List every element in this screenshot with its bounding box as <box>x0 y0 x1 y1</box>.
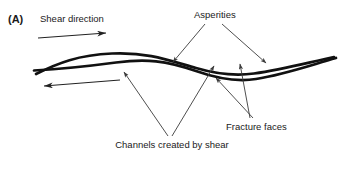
lower-fracture-face-curve <box>34 58 336 80</box>
figure-panel-a: (A) Shear direction Asperities Channels … <box>0 0 339 175</box>
channels-label: Channels created by shear <box>113 140 231 151</box>
bottom-shear-arrow <box>44 80 120 86</box>
panel-label: (A) <box>8 13 23 26</box>
top-shear-arrow <box>38 33 106 38</box>
shear-direction-label: Shear direction <box>40 14 104 25</box>
asperity-right-leader <box>222 24 266 63</box>
asperity-left-leader <box>173 24 205 62</box>
channel-right-leader <box>172 66 214 136</box>
fracture-faces-label: Fracture faces <box>226 122 287 133</box>
fracture-lower-leader <box>216 78 253 118</box>
channel-left-leader <box>124 72 168 136</box>
asperities-label: Asperities <box>194 10 236 21</box>
